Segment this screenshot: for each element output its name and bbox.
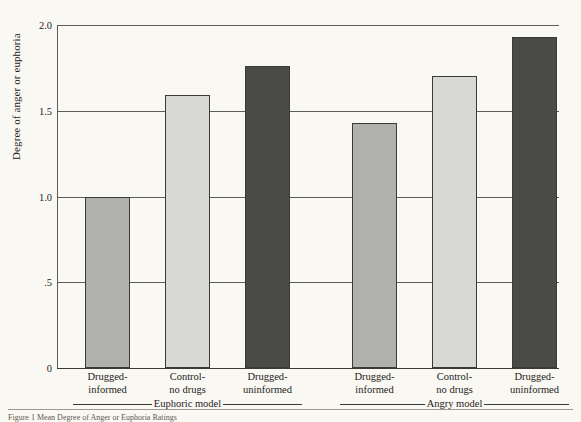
x-axis-label-line2: informed [334,384,415,397]
y-tick-label-1p0: 1.0 [26,191,52,202]
x-axis-label-2: Control-no drugs [147,371,228,396]
x-axis-label-6: Drugged-uninformed [494,371,575,396]
bar-3 [245,66,290,368]
group-label-1: Euphoric model [152,398,223,409]
y-axis-tick-labels: 2.01.51.0.50 [24,25,52,369]
x-axis-labels: Drugged-informedControl-no drugsDrugged-… [57,371,559,399]
bar-1 [85,197,130,369]
x-axis-label-line1: Drugged- [67,371,148,384]
x-axis-label-line1: Drugged- [227,371,308,384]
group-brackets: Euphoric modelAngry model [57,397,559,413]
x-axis-label-line1: Drugged- [494,371,575,384]
x-axis-label-line1: Control- [147,371,228,384]
y-tick-label-2p0: 2.0 [26,20,52,31]
y-tick-label-1p5: 1.5 [26,105,52,116]
x-axis-label-5: Control-no drugs [414,371,495,396]
figure-caption: Figure 1 Mean Degree of Anger or Euphori… [8,413,573,422]
bracket-rule-right [223,404,302,405]
bar-4 [352,123,397,368]
bar-chart-figure: Degree of anger or euphoria 2.01.51.0.50… [0,0,581,422]
x-axis-label-line2: informed [67,384,148,397]
gridline-p5 [57,282,559,283]
bracket-rule-left [73,404,152,405]
y-tick-label-0: 0 [26,363,52,374]
x-axis-label-4: Drugged-informed [334,371,415,396]
x-axis-label-3: Drugged-uninformed [227,371,308,396]
bracket-rule-right [484,404,569,405]
bar-5 [432,76,477,368]
x-axis-label-line2: uninformed [227,384,308,397]
x-axis-label-1: Drugged-informed [67,371,148,396]
x-axis-label-line2: uninformed [494,384,575,397]
caption-divider [8,409,573,410]
bar-6 [512,37,557,368]
gridline-0 [57,368,559,369]
gridline-1p0 [57,197,559,198]
x-axis-label-line2: no drugs [414,384,495,397]
bracket-rule-left [340,404,425,405]
plot-area [57,25,559,368]
bar-2 [165,95,210,368]
gridline-1p5 [57,111,559,112]
x-axis-label-line1: Drugged- [334,371,415,384]
x-axis-label-line1: Control- [414,371,495,384]
x-axis-label-line2: no drugs [147,384,228,397]
gridline-2p0 [57,25,559,26]
y-tick-label-p5: .5 [26,277,52,288]
group-label-2: Angry model [425,398,485,409]
